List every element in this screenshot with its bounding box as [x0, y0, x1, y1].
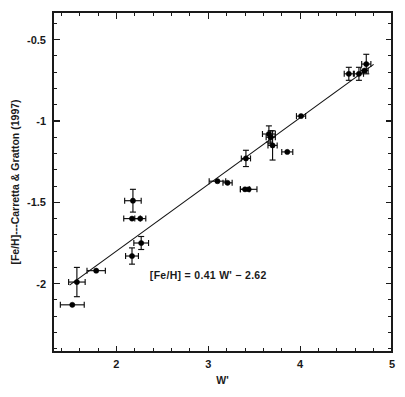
data-point	[268, 135, 273, 140]
y-axis-title: [Fe/H]---Carretta & Gratton (1997)	[9, 99, 21, 264]
y-tick-label: -2	[36, 278, 46, 290]
plot-canvas: 2345 -0.5-1-1.5-2 [Fe/H] = 0.41 W' − 2.6…	[0, 0, 405, 397]
y-axis-tick-labels: -0.5-1-1.5-2	[27, 34, 46, 290]
fit-line	[70, 64, 374, 285]
data-point	[70, 302, 75, 307]
x-tick-label: 4	[297, 358, 304, 370]
data-point	[130, 198, 135, 203]
data-point	[138, 216, 143, 221]
axis-titles: W'[Fe/H]---Carretta & Gratton (1997)	[9, 99, 229, 386]
x-tick-label: 2	[113, 358, 119, 370]
data-point	[298, 114, 303, 119]
data-point	[215, 179, 220, 184]
scatter-plot-figure: 2345 -0.5-1-1.5-2 [Fe/H] = 0.41 W' − 2.6…	[0, 0, 405, 397]
x-axis-title: W'	[216, 374, 228, 386]
y-tick-label: -0.5	[27, 34, 46, 46]
data-point	[129, 253, 134, 258]
regression-fit-line	[70, 64, 374, 285]
data-point	[74, 279, 79, 284]
x-axis-major-ticks	[116, 12, 392, 352]
data-point	[362, 68, 367, 73]
y-axis-minor-ticks	[53, 23, 392, 348]
data-point	[364, 61, 369, 66]
data-point	[246, 187, 251, 192]
y-tick-label: -1	[36, 115, 46, 127]
x-tick-label: 3	[205, 358, 211, 370]
data-point	[243, 156, 248, 161]
equation-annotation: [Fe/H] = 0.41 W' − 2.62	[150, 269, 267, 281]
x-axis-tick-labels: 2345	[113, 358, 395, 370]
x-tick-label: 5	[389, 358, 395, 370]
data-point	[285, 149, 290, 154]
data-point	[129, 216, 134, 221]
data-point	[94, 268, 99, 273]
data-point	[356, 71, 361, 76]
y-axis-major-ticks	[53, 40, 392, 284]
data-point	[346, 71, 351, 76]
y-tick-label: -1.5	[27, 196, 46, 208]
data-point	[270, 143, 275, 148]
fit-equation-label: [Fe/H] = 0.41 W' − 2.62	[150, 269, 267, 281]
data-point	[225, 180, 230, 185]
data-point	[139, 240, 144, 245]
